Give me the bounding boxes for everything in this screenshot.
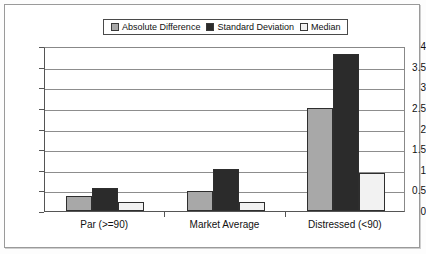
legend-entry[interactable]: Standard Deviation (206, 23, 294, 32)
legend-entry[interactable]: Absolute Difference (111, 23, 200, 32)
plot-area (44, 47, 405, 212)
y-tick-label: 0.5 (390, 186, 426, 196)
y-tick-mark (39, 88, 44, 89)
bar[interactable] (239, 202, 265, 211)
y-tick-mark (39, 47, 44, 48)
bar[interactable] (92, 188, 118, 211)
bar[interactable] (333, 54, 359, 211)
legend-label: Standard Deviation (217, 23, 294, 32)
y-tick-mark (39, 130, 44, 131)
bar[interactable] (213, 169, 239, 211)
y-tick-mark (39, 191, 44, 192)
y-tick-label: 1 (390, 166, 426, 176)
y-tick-label: 4 (390, 42, 426, 52)
legend-swatch-icon (206, 23, 214, 31)
y-tick-label: 3 (390, 83, 426, 93)
chart-legend: Absolute DifferenceStandard DeviationMed… (103, 19, 348, 35)
legend-swatch-icon (300, 23, 308, 31)
legend-label: Absolute Difference (122, 23, 200, 32)
bar[interactable] (118, 202, 144, 211)
bar[interactable] (307, 108, 333, 211)
y-tick-label: 3.5 (390, 63, 426, 73)
y-tick-mark (39, 68, 44, 69)
x-category-label: Distressed (<90) (285, 219, 405, 231)
y-tick-mark (39, 150, 44, 151)
chart-screenshot: Absolute DifferenceStandard DeviationMed… (0, 0, 426, 254)
bar[interactable] (66, 196, 92, 211)
bar-group (187, 48, 265, 211)
bar[interactable] (187, 191, 213, 211)
bar-group (307, 48, 385, 211)
legend-swatch-icon (111, 23, 119, 31)
bar[interactable] (359, 173, 385, 211)
bar-group (66, 48, 144, 211)
y-tick-mark (39, 171, 44, 172)
x-category-separator (285, 212, 286, 217)
y-tick-label: 1.5 (390, 145, 426, 155)
y-tick-label: 2 (390, 125, 426, 135)
legend-label: Median (311, 23, 341, 32)
y-tick-mark (39, 212, 44, 213)
y-tick-label: 0 (390, 207, 426, 217)
x-category-separator (164, 212, 165, 217)
x-category-label: Par (>=90) (44, 219, 164, 231)
y-tick-mark (39, 109, 44, 110)
x-category-label: Market Average (164, 219, 284, 231)
legend-entry[interactable]: Median (300, 23, 341, 32)
y-tick-label: 2.5 (390, 104, 426, 114)
